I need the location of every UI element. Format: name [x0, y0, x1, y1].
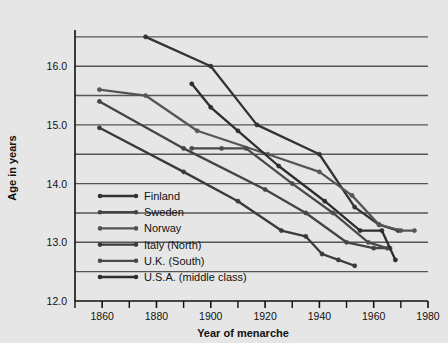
data-point [331, 211, 335, 215]
data-point [236, 199, 240, 203]
data-point [190, 82, 194, 86]
data-point [412, 228, 416, 232]
legend-item-finland[interactable]: Finland [98, 190, 180, 202]
legend-label: U.K. (South) [144, 255, 205, 267]
data-point [209, 105, 213, 109]
data-point [144, 93, 148, 97]
data-point [323, 199, 327, 203]
data-point [336, 258, 340, 262]
data-point [97, 88, 101, 92]
data-point [353, 264, 357, 268]
data-point [97, 99, 101, 103]
x-tick-label: 1940 [308, 310, 332, 322]
legend-label: Italy (North) [144, 239, 201, 251]
legend-item-u-k-south[interactable]: U.K. (South) [98, 255, 205, 267]
legend-label: Sweden [144, 206, 184, 218]
x-tick-label: 1920 [253, 310, 277, 322]
data-point [380, 228, 384, 232]
legend-marker-start [98, 194, 103, 199]
y-tick-label: 15.0 [47, 119, 68, 131]
chart-figure: 1860188019001920194019601980 12.013.014.… [0, 0, 448, 343]
legend-marker-end [134, 194, 139, 199]
data-point [279, 228, 283, 232]
series-finland [144, 35, 401, 233]
data-point [220, 146, 224, 150]
data-point [236, 129, 240, 133]
data-point [190, 146, 194, 150]
data-point [350, 193, 354, 197]
data-point [144, 35, 148, 39]
data-point [182, 170, 186, 174]
data-point [353, 205, 357, 209]
legend-item-italy-north[interactable]: Italy (North) [98, 239, 202, 251]
data-point [209, 64, 213, 68]
legend-label: Finland [144, 190, 180, 202]
data-point [97, 126, 101, 130]
data-point [182, 146, 186, 150]
x-tick-label: 1980 [416, 310, 440, 322]
x-axis: 1860188019001920194019601980 [75, 301, 440, 322]
legend-item-norway[interactable]: Norway [98, 222, 182, 234]
legend-marker-start [98, 210, 103, 215]
y-tick-label: 14.0 [47, 178, 68, 190]
legend-item-u-s-a-middle-class[interactable]: U.S.A. (middle class) [98, 271, 247, 283]
data-point [320, 252, 324, 256]
legend-marker-end [134, 210, 139, 215]
data-point [377, 223, 381, 227]
y-tick-label: 16.0 [47, 60, 68, 72]
legend-marker-start [98, 259, 103, 264]
x-axis-title: Year of menarche [197, 327, 289, 339]
line-chart: 1860188019001920194019601980 12.013.014.… [0, 0, 448, 343]
legend-item-sweden[interactable]: Sweden [98, 206, 184, 218]
legend-marker-start [98, 242, 103, 247]
data-point [244, 146, 248, 150]
legend-marker-start [98, 226, 103, 231]
data-point [255, 123, 259, 127]
y-tick-label: 13.0 [47, 236, 68, 248]
legend-label: U.S.A. (middle class) [144, 271, 247, 283]
data-point [195, 129, 199, 133]
data-point [366, 240, 370, 244]
data-point [317, 170, 321, 174]
data-point [344, 240, 348, 244]
series-u-s-a-middle-class [190, 82, 398, 262]
x-tick-label: 1900 [199, 310, 223, 322]
data-point [290, 182, 294, 186]
gridlines [75, 37, 428, 272]
data-point [263, 187, 267, 191]
legend-label: Norway [144, 222, 182, 234]
data-point [277, 164, 281, 168]
data-point [393, 258, 397, 262]
y-tick-label: 12.0 [47, 295, 68, 307]
legend-marker-start [98, 275, 103, 280]
x-tick-label: 1880 [145, 310, 169, 322]
data-point [358, 228, 362, 232]
data-point [372, 246, 376, 250]
legend-marker-end [134, 242, 139, 247]
data-point [317, 152, 321, 156]
legend-marker-end [134, 275, 139, 280]
y-axis-title: Age in years [6, 135, 18, 200]
data-point [304, 234, 308, 238]
legend-marker-end [134, 226, 139, 231]
legend-marker-end [134, 259, 139, 264]
x-tick-label: 1860 [90, 310, 114, 322]
series-sweden [97, 99, 392, 250]
y-axis: 12.013.014.015.016.0 [47, 30, 75, 307]
chart-legend: FinlandSwedenNorwayItaly (North)U.K. (So… [98, 190, 247, 283]
data-point [399, 228, 403, 232]
data-point [304, 211, 308, 215]
x-tick-label: 1960 [362, 310, 386, 322]
